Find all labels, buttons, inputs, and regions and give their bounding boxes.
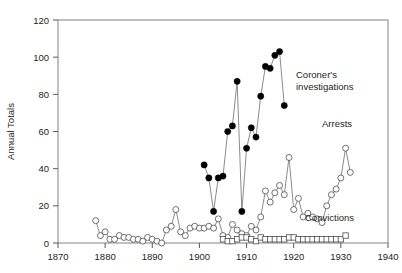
datapoint-coroner-s-investigations-1915[interactable] xyxy=(267,65,273,71)
datapoint-coroner-s-investigations-1917[interactable] xyxy=(276,48,282,54)
datapoint-arrests-1895[interactable] xyxy=(173,207,179,213)
datapoint-coroner-s-investigations-1906[interactable] xyxy=(225,128,231,134)
datapoint-arrests-1907[interactable] xyxy=(229,221,235,227)
datapoint-arrests-1919[interactable] xyxy=(286,155,292,161)
y-axis-title: Annual Totals xyxy=(5,103,16,160)
datapoint-arrests-1897[interactable] xyxy=(182,233,188,239)
series-label-coroners-line1: Coroner's xyxy=(296,69,337,80)
datapoint-arrests-1920[interactable] xyxy=(291,207,297,213)
datapoint-arrests-1918[interactable] xyxy=(281,192,287,198)
y-tick-label: 40 xyxy=(38,163,49,174)
datapoint-arrests-1932[interactable] xyxy=(347,169,353,175)
datapoint-arrests-1928[interactable] xyxy=(328,192,334,198)
datapoint-coroner-s-investigations-1913[interactable] xyxy=(258,93,264,99)
plot-frame xyxy=(58,20,388,243)
datapoint-arrests-1921[interactable] xyxy=(295,195,301,201)
datapoint-coroner-s-investigations-1907[interactable] xyxy=(229,123,235,129)
x-tick-label: 1900 xyxy=(189,251,210,262)
x-tick-label: 1880 xyxy=(95,251,116,262)
datapoint-convictions-1931[interactable] xyxy=(343,233,348,238)
datapoint-arrests-1903[interactable] xyxy=(211,225,217,231)
datapoint-arrests-1880[interactable] xyxy=(102,229,108,235)
datapoint-coroner-s-investigations-1905[interactable] xyxy=(220,173,226,179)
x-tick-label: 1920 xyxy=(283,251,304,262)
datapoint-arrests-1929[interactable] xyxy=(333,186,339,192)
annual-totals-chart: 0204060801001201870188018901900191019201… xyxy=(0,0,402,273)
y-tick-label: 100 xyxy=(33,52,49,63)
x-tick-label: 1890 xyxy=(142,251,163,262)
y-tick-label: 20 xyxy=(38,200,49,211)
datapoint-coroner-s-investigations-1908[interactable] xyxy=(234,78,240,84)
chart-container: 0204060801001201870188018901900191019201… xyxy=(0,0,402,273)
datapoint-coroner-s-investigations-1903[interactable] xyxy=(210,208,216,214)
datapoint-arrests-1904[interactable] xyxy=(215,216,221,222)
datapoint-coroner-s-investigations-1912[interactable] xyxy=(253,134,259,140)
datapoint-arrests-1878[interactable] xyxy=(93,218,99,224)
y-tick-label: 0 xyxy=(44,238,49,249)
datapoint-arrests-1917[interactable] xyxy=(277,182,283,188)
datapoint-coroner-s-investigations-1910[interactable] xyxy=(243,145,249,151)
y-tick-label: 120 xyxy=(33,15,49,26)
x-tick-label: 1930 xyxy=(330,251,351,262)
datapoint-arrests-1915[interactable] xyxy=(267,199,273,205)
x-tick-label: 1870 xyxy=(47,251,68,262)
datapoint-arrests-1931[interactable] xyxy=(343,145,349,151)
datapoint-arrests-1892[interactable] xyxy=(159,240,165,246)
datapoint-arrests-1912[interactable] xyxy=(253,227,259,233)
series-label-arrests: Arrests xyxy=(322,118,352,129)
datapoint-coroner-s-investigations-1909[interactable] xyxy=(239,208,245,214)
datapoint-coroner-s-investigations-1902[interactable] xyxy=(206,175,212,181)
datapoint-arrests-1916[interactable] xyxy=(272,190,278,196)
datapoint-coroner-s-investigations-1911[interactable] xyxy=(248,125,254,131)
datapoint-coroner-s-investigations-1918[interactable] xyxy=(281,102,287,108)
series-label-coroners-line2: investigations xyxy=(296,81,354,92)
y-tick-label: 60 xyxy=(38,126,49,137)
x-tick-label: 1910 xyxy=(236,251,257,262)
datapoint-coroner-s-investigations-1901[interactable] xyxy=(201,162,207,168)
datapoint-arrests-1914[interactable] xyxy=(262,188,268,194)
y-tick-label: 80 xyxy=(38,89,49,100)
datapoint-arrests-1913[interactable] xyxy=(258,214,264,220)
datapoint-arrests-1927[interactable] xyxy=(324,203,330,209)
datapoint-arrests-1894[interactable] xyxy=(168,223,174,229)
series-line-coroner-s-investigations xyxy=(204,52,284,212)
series-label-convictions: Convictions xyxy=(305,212,354,223)
datapoint-arrests-1930[interactable] xyxy=(338,175,344,181)
x-tick-label: 1940 xyxy=(377,251,398,262)
series-line-arrests xyxy=(96,148,351,243)
